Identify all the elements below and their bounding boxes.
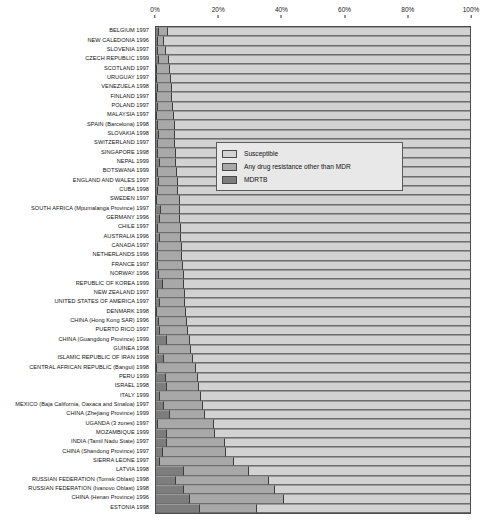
bar-segment-other — [170, 410, 205, 419]
bar-segment-mdr — [156, 382, 167, 391]
bar-row — [156, 466, 470, 475]
bar-segment-susceptible — [175, 120, 470, 129]
category-label: CHINA (Shandong Province) 1997 — [62, 448, 149, 455]
bar-row — [156, 279, 470, 288]
bar-segment-susceptible — [188, 326, 470, 335]
category-label: CHINA (Henan Province) 1996 — [71, 494, 149, 501]
bar-segment-susceptible — [175, 130, 470, 139]
bar-segment-other — [159, 177, 178, 186]
bar-segment-susceptible — [198, 373, 470, 382]
bar-segment-susceptible — [225, 438, 470, 447]
bar-segment-susceptible — [203, 401, 470, 410]
bar-segment-other — [157, 74, 171, 83]
category-label: INDIA (Tamil Nadu State) 1997 — [71, 438, 149, 445]
bar-segment-other — [157, 64, 170, 73]
category-label: LATVIA 1998 — [116, 466, 149, 473]
bar-row — [156, 504, 470, 513]
bar-segment-other — [158, 242, 182, 251]
x-axis-tick-label: 100% — [463, 6, 480, 13]
category-label: CHINA (Hong Kong SAR) 1996 — [70, 317, 149, 324]
bar-row — [156, 111, 470, 120]
bar-segment-susceptible — [226, 447, 470, 456]
bar-segment-mdr — [156, 494, 190, 503]
x-axis-tick-label: 40% — [275, 6, 288, 13]
bar-segment-other — [158, 261, 183, 270]
category-label: NORWAY 1996 — [110, 270, 149, 277]
bar-segment-other — [190, 494, 284, 503]
bar-row — [156, 457, 470, 466]
bar-segment-susceptible — [170, 64, 470, 73]
legend-label: MDRTB — [244, 176, 267, 184]
bar-segment-other — [167, 335, 190, 344]
bar-row — [156, 214, 470, 223]
bar-row — [156, 391, 470, 400]
bar-segment-other — [158, 46, 166, 55]
bar-segment-susceptible — [257, 504, 470, 513]
bar-row — [156, 335, 470, 344]
plot-area — [155, 26, 471, 514]
category-label: SWITZERLAND 1997 — [94, 139, 149, 146]
x-axis-tick: 0% — [150, 6, 159, 18]
bar-segment-other — [158, 120, 175, 129]
bar-segment-susceptible — [180, 195, 470, 204]
category-label: SLOVENIA 1997 — [107, 46, 149, 53]
category-label: ENGLAND AND WALES 1997 — [73, 177, 149, 184]
bar-row — [156, 270, 470, 279]
bar-segment-other — [176, 476, 269, 485]
bar-segment-other — [159, 27, 168, 36]
bar-segment-susceptible — [275, 485, 470, 494]
bar-segment-susceptible — [168, 27, 470, 36]
bar-rows — [156, 27, 470, 513]
bar-segment-other — [158, 419, 215, 428]
bar-row — [156, 317, 470, 326]
bar-segment-mdr — [156, 373, 166, 382]
bar-segment-other — [158, 102, 173, 111]
legend-label: Susceptible — [244, 150, 278, 158]
category-label: SIERRA LEONE 1997 — [93, 457, 149, 464]
bar-row — [156, 233, 470, 242]
bar-row — [156, 36, 470, 45]
x-axis-tick-label: 20% — [212, 6, 225, 13]
bar-segment-susceptible — [183, 261, 470, 270]
bar-segment-other — [159, 270, 183, 279]
bar-row — [156, 83, 470, 92]
x-axis: 0%20%40%60%80%100% — [0, 0, 488, 28]
x-axis-tick-label: 80% — [401, 6, 414, 13]
bar-segment-other — [157, 307, 186, 316]
bar-segment-mdr — [156, 401, 164, 410]
bar-row — [156, 205, 470, 214]
bar-segment-mdr — [156, 429, 167, 438]
bar-segment-other — [160, 233, 181, 242]
bar-segment-susceptible — [193, 354, 470, 363]
x-axis-tick: 60% — [338, 6, 351, 18]
category-label: SINGAPORE 1998 — [101, 149, 149, 156]
bar-segment-other — [158, 289, 184, 298]
bar-segment-susceptible — [171, 74, 470, 83]
category-label: CHINA (Guangdong Province) 1999 — [59, 336, 149, 343]
category-label: CENTRAL AFRICAN REPUBLIC (Bangui) 1998 — [29, 364, 149, 371]
bar-segment-other — [158, 186, 178, 195]
category-label: SOUTH AFRICA (Mpumalanga Province) 1997 — [31, 205, 149, 212]
category-label: BELGIUM 1997 — [109, 27, 149, 34]
category-label: GUINEA 1998 — [113, 345, 149, 352]
bar-segment-susceptible — [164, 36, 470, 45]
bar-row — [156, 102, 470, 111]
x-axis-tick-mark — [281, 15, 282, 18]
category-label: URUGUAY 1997 — [107, 74, 149, 81]
legend-swatch-other — [222, 163, 237, 171]
category-label: CZECH REPUBLIC 1999 — [85, 55, 149, 62]
bar-row — [156, 223, 470, 232]
bar-segment-mdr — [156, 279, 163, 288]
bar-segment-other — [159, 317, 187, 326]
bar-segment-mdr — [156, 485, 184, 494]
x-axis-tick-mark — [471, 15, 472, 18]
bar-segment-susceptible — [173, 102, 470, 111]
category-label: PUERTO RICO 1997 — [96, 326, 149, 333]
bar-segment-other — [163, 279, 184, 288]
bar-segment-susceptible — [269, 476, 470, 485]
category-label: SWEDEN 1997 — [110, 195, 149, 202]
bar-segment-mdr — [156, 466, 184, 475]
bar-segment-other — [158, 148, 176, 157]
bar-segment-susceptible — [184, 279, 470, 288]
bar-segment-other — [167, 382, 198, 391]
